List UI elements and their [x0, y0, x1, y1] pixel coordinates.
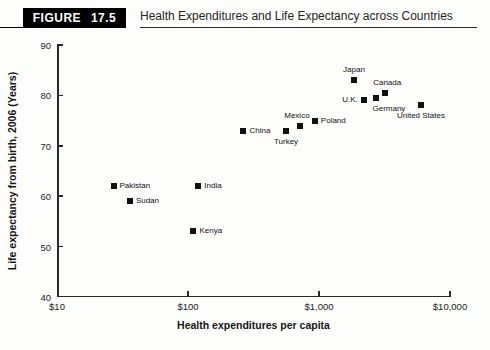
y-tick-label: 60 — [40, 191, 51, 202]
point-marker-mexico — [297, 123, 303, 129]
point-label: Mexico — [284, 112, 309, 120]
figure-panel: FIGURE 17.5 Health Expenditures and Life… — [0, 0, 490, 350]
x-tick-label: $100 — [177, 301, 198, 312]
x-tick — [449, 291, 451, 297]
y-tick — [57, 246, 63, 248]
point-marker-pakistan — [111, 183, 117, 189]
point-marker-germany — [373, 95, 379, 101]
point-label: Kenya — [199, 227, 222, 235]
point-label: Sudan — [136, 197, 159, 205]
y-tick-label: 50 — [40, 241, 51, 252]
y-tick-label: 80 — [40, 90, 51, 101]
x-tick-label: $1,000 — [304, 301, 333, 312]
point-marker-india — [195, 183, 201, 189]
point-label: Japan — [343, 66, 365, 74]
x-tick-label: $10 — [49, 301, 65, 312]
point-marker-sudan — [127, 198, 133, 204]
y-tick — [57, 145, 63, 147]
point-marker-canada — [382, 90, 388, 96]
figure-title: Health Expenditures and Life Expectancy … — [140, 9, 477, 28]
plot-area: $10$100$1,000$10,000908070605040Pakistan… — [57, 45, 450, 297]
point-marker-poland — [312, 118, 318, 124]
x-tick — [318, 291, 320, 297]
point-marker-kenya — [190, 228, 196, 234]
x-axis-title: Health expenditures per capita — [57, 319, 450, 331]
x-axis-line — [57, 296, 450, 298]
y-tick — [57, 195, 63, 197]
y-tick-label: 70 — [40, 140, 51, 151]
figure-number-label: FIGURE 17.5 — [33, 11, 117, 25]
point-marker-united-states — [418, 102, 424, 108]
point-label: India — [204, 182, 221, 190]
x-tick-label: $10,000 — [433, 301, 467, 312]
point-marker-japan — [351, 77, 357, 83]
y-axis-line — [57, 45, 59, 297]
point-label: Poland — [321, 117, 346, 125]
figure-number-badge: FIGURE 17.5 — [23, 8, 126, 28]
point-label: Canada — [373, 79, 401, 87]
y-axis-title: Life expectancy from birth, 2006 (Years) — [6, 72, 18, 270]
point-label: United States — [397, 112, 445, 120]
y-axis-title-area: Life expectancy from birth, 2006 (Years) — [3, 45, 21, 297]
point-label: China — [249, 127, 270, 135]
y-tick — [57, 44, 63, 46]
point-marker-u-k- — [361, 97, 367, 103]
y-tick — [57, 95, 63, 97]
point-marker-china — [240, 128, 246, 134]
header-left-rule — [0, 27, 23, 29]
point-marker-turkey — [283, 128, 289, 134]
x-tick — [187, 291, 189, 297]
point-label: Pakistan — [120, 182, 151, 190]
y-tick-label: 40 — [40, 292, 51, 303]
point-label: U.K. — [342, 96, 358, 104]
point-label: Turkey — [274, 138, 298, 146]
y-tick-label: 90 — [40, 40, 51, 51]
